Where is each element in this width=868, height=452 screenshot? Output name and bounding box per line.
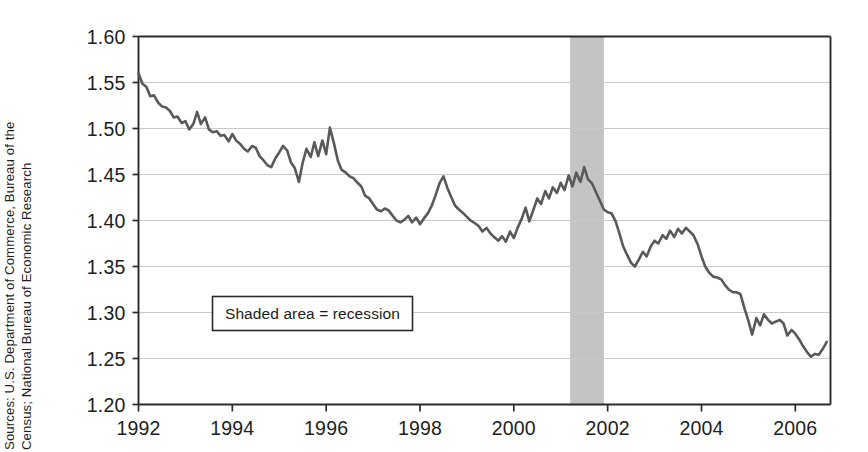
- x-axis-ticks: [139, 405, 796, 412]
- y-tick-label: 1.50: [87, 118, 126, 140]
- x-tick-label: 2002: [586, 417, 630, 439]
- legend-label: Shaded area = recession: [225, 305, 400, 322]
- x-tick-label: 1992: [116, 417, 160, 439]
- y-tick-label: 1.35: [87, 256, 126, 278]
- x-tick-label: 2004: [679, 417, 723, 439]
- x-tick-label: 2000: [492, 417, 536, 439]
- y-tick-label: 1.60: [87, 26, 126, 48]
- y-tick-label: 1.20: [87, 394, 126, 416]
- x-tick-label: 1998: [398, 417, 442, 439]
- y-tick-label: 1.40: [87, 210, 126, 232]
- x-tick-label: 2006: [773, 417, 817, 439]
- x-tick-label: 1994: [210, 417, 254, 439]
- y-tick-label: 1.55: [87, 72, 126, 94]
- y-tick-label: 1.25: [87, 348, 126, 370]
- line-chart: 1.201.251.301.351.401.451.501.551.60 199…: [0, 0, 868, 452]
- figure-root: Sources: U.S. Department of Commerce, Bu…: [0, 0, 868, 452]
- y-tick-label: 1.30: [87, 302, 126, 324]
- x-axis-tick-labels: 19921994199619982000200220042006: [116, 417, 817, 439]
- legend-box: Shaded area = recession: [213, 297, 413, 331]
- y-tick-label: 1.45: [87, 164, 126, 186]
- chart-plot-area: 1.201.251.301.351.401.451.501.551.60 199…: [0, 0, 868, 452]
- x-tick-label: 1996: [304, 417, 348, 439]
- y-axis-tick-labels: 1.201.251.301.351.401.451.501.551.60: [87, 26, 126, 416]
